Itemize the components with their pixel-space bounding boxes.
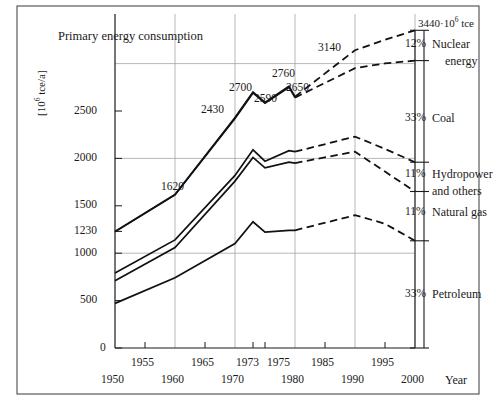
legend-percent-nuclear: 12% (405, 38, 426, 50)
y-tick-label-500: 500 (80, 294, 97, 306)
x-tick-label-1990: 1990 (341, 374, 364, 386)
data-label-2700: 2700 (229, 82, 252, 94)
y-tick-label-2500: 2500 (74, 105, 97, 117)
y-tick-label-1500: 1500 (74, 199, 97, 211)
primary-energy-consumption-chart: [106 tce/a] Primary energy consumption 0… (0, 0, 496, 414)
y-tick-label-0: 0 (100, 342, 106, 354)
series-solid-lines (115, 86, 295, 303)
legend-percent-petroleum: 33% (405, 288, 426, 300)
legend-name-natural-gas: Natural gas (432, 206, 487, 218)
legend-bracket (410, 30, 429, 348)
legend-name-nuclear-line2: energy (445, 55, 477, 67)
x-tick-label-1950: 1950 (101, 374, 124, 386)
x-tick-label-1973: 1973 (236, 357, 259, 369)
legend-name-hydropower-line2: and others (432, 185, 482, 197)
x-tick-label-1970: 1970 (221, 374, 244, 386)
legend-percent-hydropower: 11% (405, 168, 426, 180)
x-tick-label-1995: 1995 (371, 357, 394, 369)
x-tick-label-1955: 1955 (131, 357, 154, 369)
data-label-2590: 2590 (254, 93, 277, 105)
data-label-2760: 2760 (272, 68, 295, 80)
total-annotation-label: 3440·106 tce (418, 18, 474, 29)
x-tick-label-1960: 1960 (161, 374, 184, 386)
data-label-2430: 2430 (201, 104, 224, 116)
x-axis-minor-ticks (145, 342, 385, 348)
x-tick-label-1965: 1965 (191, 357, 214, 369)
x-tick-label-1975: 1975 (267, 357, 290, 369)
legend-percent-natural-gas: 11% (405, 206, 426, 218)
y-tick-label-1230: 1230 (74, 225, 97, 237)
y-tick-label-1000: 1000 (74, 247, 97, 259)
data-label-2650: 2650 (286, 82, 309, 94)
plot-title: Primary energy consumption (58, 30, 203, 43)
x-tick-label-1985: 1985 (311, 357, 334, 369)
x-tick-label-2000: 2000 (401, 374, 424, 386)
legend-name-coal: Coal (432, 112, 455, 124)
legend-name-hydropower: Hydropower (432, 168, 493, 180)
legend-name-nuclear: Nuclear (432, 38, 470, 50)
data-label-1620: 1620 (161, 181, 184, 193)
y-tick-label-2000: 2000 (74, 152, 97, 164)
x-axis-name: Year (445, 374, 467, 386)
legend-name-petroleum: Petroleum (432, 288, 481, 300)
legend-percent-coal: 33% (405, 112, 426, 124)
data-label-3140: 3140 (318, 42, 341, 54)
x-tick-label-1980: 1980 (281, 374, 304, 386)
y-axis-unit-label: [106 tce/a] (36, 70, 47, 116)
